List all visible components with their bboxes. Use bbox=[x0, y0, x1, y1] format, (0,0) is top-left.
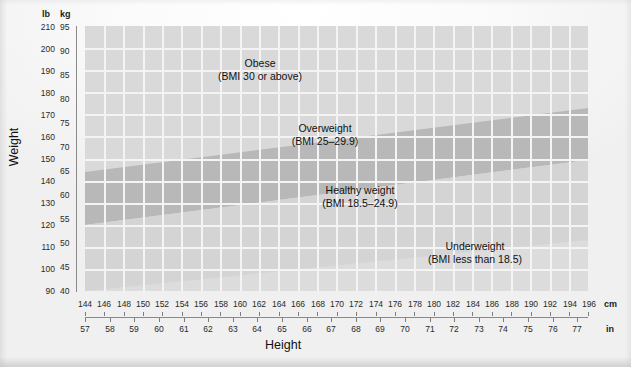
y-tick-lb: 90 bbox=[29, 286, 55, 296]
x-tickmark-in bbox=[356, 318, 357, 322]
y-tick-lb: 100 bbox=[29, 264, 55, 274]
y-tick-lb: 130 bbox=[29, 198, 55, 208]
x-tickmark-in bbox=[577, 318, 578, 322]
x-tickmark-in bbox=[430, 318, 431, 322]
y-tick-kg: 40 bbox=[60, 286, 80, 296]
x-tick-in: 75 bbox=[516, 324, 540, 334]
zone-label-healthy-name: Healthy weight bbox=[260, 184, 460, 197]
x-tickmark-in bbox=[134, 318, 135, 322]
y-tick-lb: 210 bbox=[29, 22, 55, 32]
y-tick-lb: 200 bbox=[29, 44, 55, 54]
y-tick-kg: 50 bbox=[60, 238, 80, 248]
y-axis-unit-kg: kg bbox=[60, 9, 71, 19]
x-tickmark-cm bbox=[259, 312, 260, 316]
y-tick-lb: 190 bbox=[29, 66, 55, 76]
x-tick-in: 77 bbox=[565, 324, 589, 334]
x-tickmark-in bbox=[331, 318, 332, 322]
x-tickmark-in bbox=[85, 318, 86, 322]
x-tickmark-in bbox=[184, 318, 185, 322]
x-tickmark-cm bbox=[298, 312, 299, 316]
gridline-h bbox=[85, 92, 588, 94]
x-tickmark-cm bbox=[317, 312, 318, 316]
x-tickmark-cm bbox=[472, 312, 473, 316]
x-tickmark-in bbox=[528, 318, 529, 322]
x-tickmark-cm bbox=[240, 312, 241, 316]
x-tick-in: 66 bbox=[295, 324, 319, 334]
y-tick-kg: 60 bbox=[60, 190, 80, 200]
y-tick-kg: 45 bbox=[60, 262, 80, 272]
x-tickmark-in bbox=[380, 318, 381, 322]
x-tickmark-in bbox=[282, 318, 283, 322]
x-tickmark-cm bbox=[143, 312, 144, 316]
y-tick-kg: 70 bbox=[60, 142, 80, 152]
x-tickmark-in bbox=[553, 318, 554, 322]
zone-label-underweight-detail: (BMI less than 18.5) bbox=[370, 253, 580, 266]
x-tick-in: 65 bbox=[270, 324, 294, 334]
x-tickmark-cm bbox=[279, 312, 280, 316]
x-tickmark-cm bbox=[434, 312, 435, 316]
zone-label-healthy-detail: (BMI 18.5–24.9) bbox=[260, 197, 460, 210]
x-tickmark-cm bbox=[162, 312, 163, 316]
x-tickmark-cm bbox=[337, 312, 338, 316]
y-axis-line bbox=[76, 26, 77, 292]
y-axis-unit-lb: lb bbox=[42, 9, 50, 19]
x-tick-in: 69 bbox=[368, 324, 392, 334]
x-tickmark-cm bbox=[182, 312, 183, 316]
x-tickmark-cm bbox=[569, 312, 570, 316]
y-tick-kg: 75 bbox=[60, 118, 80, 128]
x-tick-in: 72 bbox=[442, 324, 466, 334]
zone-label-obese: Obese (BMI 30 or above) bbox=[160, 57, 360, 83]
zone-label-underweight: Underweight (BMI less than 18.5) bbox=[370, 240, 580, 266]
x-tick-in: 76 bbox=[541, 324, 565, 334]
gridline-h bbox=[85, 181, 588, 183]
x-tickmark-in bbox=[257, 318, 258, 322]
x-tick-in: 67 bbox=[319, 324, 343, 334]
y-tick-lb: 170 bbox=[29, 110, 55, 120]
gridline-h bbox=[85, 269, 588, 271]
x-tickmark-cm bbox=[414, 312, 415, 316]
x-tickmark-in bbox=[454, 318, 455, 322]
x-tick-in: 61 bbox=[172, 324, 196, 334]
y-tick-kg: 90 bbox=[60, 46, 80, 56]
x-tick-in: 70 bbox=[393, 324, 417, 334]
x-tick-in: 74 bbox=[491, 324, 515, 334]
x-tickmark-cm bbox=[85, 312, 86, 316]
x-tickmark-in bbox=[405, 318, 406, 322]
y-tick-lb: 150 bbox=[29, 154, 55, 164]
x-tickmark-cm bbox=[492, 312, 493, 316]
y-tick-kg: 85 bbox=[60, 70, 80, 80]
gridline-h bbox=[85, 225, 588, 227]
zone-label-obese-name: Obese bbox=[160, 57, 360, 70]
x-tick-in: 64 bbox=[245, 324, 269, 334]
zone-label-overweight: Overweight (BMI 25–29.9) bbox=[225, 122, 425, 148]
x-tickmark-in bbox=[307, 318, 308, 322]
y-axis-title: Weight bbox=[7, 117, 21, 177]
y-tick-kg: 55 bbox=[60, 214, 80, 224]
gridline-h bbox=[85, 159, 588, 161]
x-tickmark-cm bbox=[550, 312, 551, 316]
x-axis-unit-in: in bbox=[606, 324, 614, 334]
y-tick-kg: 65 bbox=[60, 166, 80, 176]
x-tickmark-in bbox=[208, 318, 209, 322]
x-tickmark-in bbox=[159, 318, 160, 322]
x-tickmark-cm bbox=[356, 312, 357, 316]
x-tickmark-cm bbox=[220, 312, 221, 316]
y-tick-kg: 95 bbox=[60, 22, 80, 32]
zone-label-healthy: Healthy weight (BMI 18.5–24.9) bbox=[260, 184, 460, 210]
x-tickmark-cm bbox=[395, 312, 396, 316]
zone-label-overweight-name: Overweight bbox=[225, 122, 425, 135]
y-tick-lb: 120 bbox=[29, 220, 55, 230]
x-tickmark-in bbox=[110, 318, 111, 322]
y-tick-lb: 180 bbox=[29, 88, 55, 98]
x-axis-title: Height bbox=[265, 338, 301, 352]
bmi-chart-page: Obese (BMI 30 or above) Overweight (BMI … bbox=[0, 0, 631, 367]
x-tickmark-cm bbox=[124, 312, 125, 316]
y-tick-lb: 160 bbox=[29, 132, 55, 142]
chart-plot-area: Obese (BMI 30 or above) Overweight (BMI … bbox=[85, 26, 588, 291]
y-tick-lb: 110 bbox=[29, 242, 55, 252]
x-tickmark-cm bbox=[531, 312, 532, 316]
x-axis-unit-cm: cm bbox=[604, 299, 617, 309]
x-tickmark-cm bbox=[588, 312, 589, 316]
x-tickmark-cm bbox=[201, 312, 202, 316]
x-tick-in: 73 bbox=[467, 324, 491, 334]
